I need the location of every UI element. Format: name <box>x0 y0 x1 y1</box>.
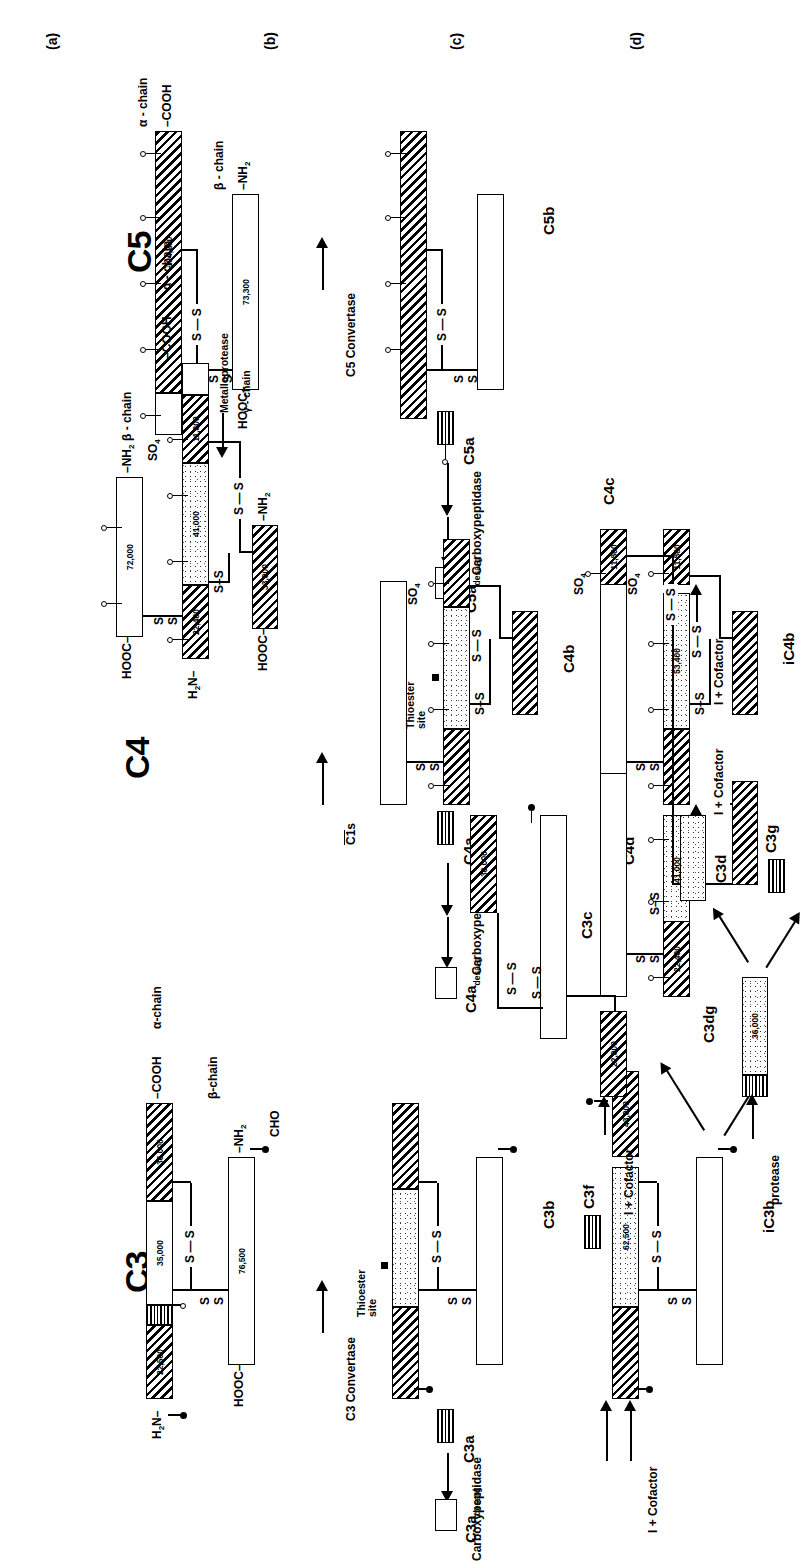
c3d-bar <box>680 815 706 901</box>
c4-metalloprotease-label: Metalloprotease <box>218 333 230 413</box>
c3-alpha-seg1-bar: 22,500 <box>146 1325 173 1399</box>
c5-ss-bridge1-v2 <box>182 249 198 251</box>
c5-beta-chain-bar: 73,300 <box>232 194 259 390</box>
c3-alpha-seg3-mw: 36,000 <box>155 1139 165 1165</box>
c3c-beta-bar <box>540 815 567 1039</box>
panel-letter-a: (a) <box>44 33 60 50</box>
c4-ss-beta-s1: S <box>152 617 166 625</box>
c5-beta-mw: 73,300 <box>241 279 251 305</box>
c4b-beta-bar <box>380 581 407 805</box>
c4-alpha-chain-label: α - chain <box>160 241 174 290</box>
c4b-disulfide-label: S — S <box>470 626 484 665</box>
ic4b-alpha-seg3-bar: 11,800 <box>663 529 690 585</box>
ic4b-gamma-bar <box>732 611 758 715</box>
c4-gamma-chain-bar: 33,000 <box>252 525 278 629</box>
c3g-box <box>768 859 785 893</box>
c4-beta-chain-bar: 72,000 <box>116 477 143 637</box>
ic4b-i-cofactor-label: I + Cofactor <box>712 639 726 705</box>
c4-alpha-seg3-mw: 11,800 <box>191 416 201 442</box>
c3c-ss-bridge-v2 <box>567 995 615 997</box>
c4-ss-ag-v1 <box>209 441 239 443</box>
ic4b-so4-label: SO4 <box>626 573 642 595</box>
c4b-ss-ag2-h <box>489 639 491 705</box>
c3b-ss-s1: S <box>446 1297 460 1305</box>
c3-alpha-seg1-mw: 22,500 <box>155 1349 165 1375</box>
c4b-so4-label: SO4 <box>406 583 422 605</box>
c4-ss-ag2-h <box>228 553 230 583</box>
c3b-ss-v2 <box>419 1181 437 1183</box>
c3c-ss-bridge-h-top <box>497 913 499 1009</box>
c4-alpha-seg1-mw: 22,400 <box>191 609 201 635</box>
c5b-ss-v1 <box>427 369 477 371</box>
c4b-alpha-seg3-bar <box>443 539 470 607</box>
c3-beta-cterm-label: HOOC– <box>232 1364 246 1407</box>
c5a-box <box>437 411 454 445</box>
c3-alpha-cterm-label: –COOH <box>150 1056 164 1099</box>
c4b-ss-ag-h <box>499 585 501 639</box>
c3c-small-mw: 22,000 <box>609 1041 619 1067</box>
ic4b-beta-bar <box>600 581 627 805</box>
c5-title: C5 <box>120 232 159 273</box>
c4a-box <box>437 811 454 845</box>
c3-cho-label: CHO <box>268 1110 282 1137</box>
c5b-disulfide-s-a: S <box>452 375 466 383</box>
c3-alpha-seg2-mw: 35,000 <box>155 1240 165 1266</box>
c3f-box <box>584 1215 601 1249</box>
c3b-alpha-seg1-bar <box>392 1307 419 1399</box>
c4c-i-cofactor-label: I + Cofactor <box>712 749 726 815</box>
ic4b-disulfide-label: S — S <box>690 622 704 661</box>
c3c-ss-bridge-v1 <box>497 1007 543 1009</box>
c5-beta-chain-label: β - chain <box>212 141 226 190</box>
c4c-label: C4c <box>600 477 617 505</box>
c4a-desarg-label: C4adesarg <box>462 958 482 1013</box>
ic4b-ss-ag2-h <box>709 639 711 705</box>
ic3b-ss-v1 <box>639 1289 696 1291</box>
c4c-small-mw: 22,400 <box>672 946 682 972</box>
c4-ss-ag-v2 <box>239 551 253 553</box>
c4-ss-beta-s2: S <box>166 617 180 625</box>
c4-beta-mw: 72,000 <box>125 544 135 570</box>
c4-beta-chain-label: β - chain <box>120 392 134 441</box>
c4b-label: C4b <box>560 645 577 673</box>
ic3b-alpha-seg1-bar <box>612 1307 639 1399</box>
ic3b-seg3-mw: 43,000 <box>621 1101 631 1127</box>
c5b-alpha-bar <box>400 131 427 419</box>
c4b-ss-ag-v1 <box>470 585 500 587</box>
c3b-ss-s2: S <box>460 1297 474 1305</box>
c3-alpha-nterm-label: H2N– <box>150 1411 166 1439</box>
c4-ss-ag2-s: S–S <box>212 570 226 593</box>
c5b-label: C5b <box>540 207 557 235</box>
c3-convertase-label: C3 Convertase <box>344 1337 358 1421</box>
c4-gamma-cterm-label: HOOC– <box>256 628 270 671</box>
c4c-beta-bar <box>600 773 627 997</box>
c3b-label: C3b <box>540 1201 557 1229</box>
ic3b-ss-s1: S <box>666 1297 680 1305</box>
c3b-ss-v1 <box>419 1289 476 1291</box>
c4c-ss-s1: S <box>634 955 648 963</box>
c4-gamma-mw: 33,000 <box>260 564 270 590</box>
ic3b-beta-bar <box>696 1157 723 1365</box>
c4c-disulfide-label: S — S <box>664 584 678 625</box>
c3-beta-chain-label: β-chain <box>206 1056 220 1099</box>
c4a-desarg-box <box>435 967 457 999</box>
c3-ss-s1: S <box>198 1297 212 1305</box>
c4-alpha-cterm-box <box>182 363 209 395</box>
c5-alpha-cterm-label: –COOH <box>160 84 174 127</box>
c3c-i-cofactor-label: I + Cofactor <box>622 1149 636 1215</box>
c3b-disulfide-label: S — S <box>430 1226 444 1267</box>
c3d-label: C3d <box>712 855 729 883</box>
c5-beta-nterm-label: –NH2 <box>236 162 252 190</box>
c5b-disulfide-s-b: S <box>466 375 480 383</box>
c4-so4-label: SO4 <box>146 439 162 461</box>
c3-disulfide-label: S — S <box>183 1226 197 1267</box>
ic4b-alpha-seg1-bar <box>663 729 690 805</box>
ic3b-seg2-mw: 62,500 <box>621 1224 631 1250</box>
c5-convertase-label: C5 Convertase <box>344 293 358 377</box>
ic3b-label: iC3b <box>760 1200 777 1233</box>
c4c-ss-s2: S <box>648 955 662 963</box>
c3b-thioester-marker <box>381 1262 388 1269</box>
ic4b-ss-ag2-s: S–S <box>693 692 707 715</box>
ic3b-i-cofactor-label: I + Cofactor <box>646 1467 660 1533</box>
ic4b-label: iC4b <box>780 632 797 665</box>
